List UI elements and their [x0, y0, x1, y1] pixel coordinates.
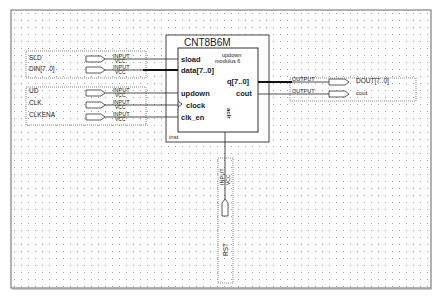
port-q: q[7..0] — [227, 77, 250, 86]
port-clock: clock — [186, 101, 206, 110]
output-name: DOUT[7..0] — [356, 77, 389, 85]
input-name: CLKENA — [29, 111, 56, 118]
input-default: VCC — [115, 69, 126, 75]
port-clk-en: clk_en — [181, 113, 205, 122]
input-default: VCC — [225, 174, 231, 185]
port-updown: updown — [181, 89, 210, 98]
schematic-canvas[interactable]: CNT8B6M updown modulus 6 sload data[7..0… — [0, 0, 442, 297]
input-name: CLK — [29, 99, 42, 106]
input-name: SLD — [29, 54, 42, 61]
input-name: UD — [29, 87, 39, 94]
port-data: data[7..0] — [181, 66, 214, 75]
block-title: CNT8B6M — [184, 37, 231, 48]
instance-label: inst — [169, 134, 179, 140]
input-name: RST — [222, 243, 229, 256]
port-sload: sload — [181, 55, 201, 64]
output-type: OUTPUT — [292, 76, 315, 82]
input-name: DIN[7..0] — [29, 65, 55, 73]
input-default: VCC — [115, 104, 126, 110]
port-aclr: aclr — [226, 108, 232, 119]
input-default: VCC — [115, 92, 126, 98]
block-param-2: modulus 6 — [215, 58, 240, 64]
output-name: cout — [356, 90, 368, 96]
input-default: VCC — [115, 116, 126, 122]
counter-block[interactable]: CNT8B6M updown modulus 6 sload data[7..0… — [166, 35, 269, 142]
output-type: OUTPUT — [292, 88, 315, 94]
port-cout: cout — [236, 89, 252, 98]
